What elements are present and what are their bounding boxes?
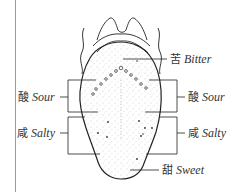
right-pillar bbox=[158, 28, 161, 74]
label-sour-left-cn: 酸 bbox=[18, 91, 29, 104]
left-pillar bbox=[81, 28, 84, 74]
label-salty-left: 咸 Salty bbox=[17, 126, 55, 141]
label-bitter-cn: 苦 bbox=[170, 53, 181, 66]
label-salty-right: 咸 Salty bbox=[188, 126, 226, 141]
label-sweet-cn: 甜 bbox=[162, 164, 173, 177]
label-sour-right: 酸 Sour bbox=[188, 90, 225, 105]
label-salty-left-cn: 咸 bbox=[17, 127, 28, 140]
label-sweet: 甜 Sweet bbox=[162, 163, 204, 178]
label-salty-right-cn: 咸 bbox=[188, 127, 199, 140]
tongue bbox=[80, 18, 162, 179]
label-salty-right-en: Salty bbox=[202, 126, 226, 140]
label-sour-right-cn: 酸 bbox=[188, 91, 199, 104]
label-sour-left: 酸 Sour bbox=[18, 90, 55, 105]
label-bitter: 苦 Bitter bbox=[170, 52, 211, 67]
label-sour-right-en: Sour bbox=[202, 90, 225, 104]
label-bitter-en: Bitter bbox=[184, 52, 211, 66]
label-sour-left-en: Sour bbox=[32, 90, 55, 104]
label-sweet-en: Sweet bbox=[176, 163, 204, 177]
label-salty-left-en: Salty bbox=[31, 126, 55, 140]
